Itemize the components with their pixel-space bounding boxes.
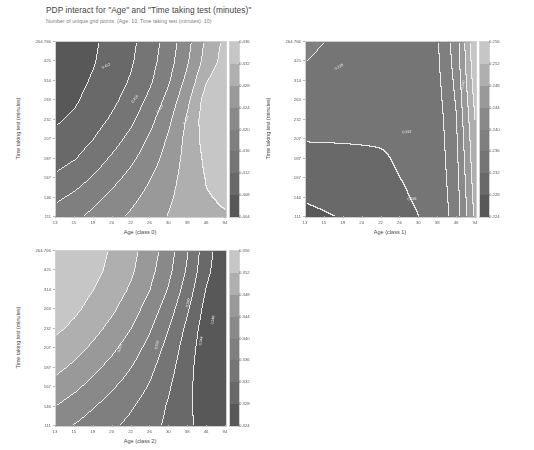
x-axis-tick-mark bbox=[187, 216, 188, 218]
y-axis-tick-label: 167 bbox=[21, 384, 51, 389]
subplot-class-0: Time taking test (minutes) Age (class 0)… bbox=[55, 41, 225, 216]
colorbar-tick-label: 0.340 bbox=[239, 335, 250, 340]
colorbar-tick-label: 0.224 bbox=[489, 214, 500, 219]
x-axis-tick-mark bbox=[55, 425, 56, 427]
y-axis-tick-label: 314 bbox=[21, 77, 51, 82]
y-axis-tick-label: 263 bbox=[271, 97, 301, 102]
x-axis-tick-label: 46 bbox=[204, 220, 209, 225]
x-axis-tick-label: 38 bbox=[185, 429, 190, 434]
pdp-figure: PDP interact for "Age" and "Time taking … bbox=[0, 0, 534, 450]
x-axis-tick-mark bbox=[168, 425, 169, 427]
x-axis-tick-mark bbox=[381, 216, 382, 218]
x-axis-tick-mark bbox=[112, 425, 113, 427]
colorbar-tick-label: 0.240 bbox=[489, 126, 500, 131]
colorbar-tick-label: 0.344 bbox=[239, 313, 250, 318]
y-axis-tick-label: 146 bbox=[21, 194, 51, 199]
y-axis-tick-label: 167 bbox=[21, 175, 51, 180]
y-axis-tick-mark bbox=[53, 41, 55, 42]
x-axis-tick-label: 15 bbox=[321, 220, 326, 225]
y-axis-tick-mark bbox=[53, 60, 55, 61]
y-axis-tick-label: 263 bbox=[21, 97, 51, 102]
x-axis-tick-mark bbox=[149, 425, 150, 427]
colorbar-tick-label: 0.336 bbox=[239, 357, 250, 362]
y-axis-tick-mark bbox=[53, 250, 55, 251]
subplot-class-1: Time taking test (minutes) Age (class 1)… bbox=[305, 41, 475, 216]
y-axis-tick-mark bbox=[53, 386, 55, 387]
x-axis-tick-label: 46 bbox=[454, 220, 459, 225]
x-axis-tick-label: 94 bbox=[223, 429, 228, 434]
x-axis-tick-label: 94 bbox=[473, 220, 478, 225]
y-axis-tick-mark bbox=[303, 41, 305, 42]
x-axis-tick-mark bbox=[168, 216, 169, 218]
contour-plot-class-1[interactable] bbox=[305, 41, 477, 218]
x-axis-tick-mark bbox=[475, 216, 476, 218]
y-axis-tick-mark bbox=[303, 177, 305, 178]
x-axis-tick-mark bbox=[131, 216, 132, 218]
x-axis-tick-label: 20 bbox=[109, 220, 114, 225]
y-axis-tick-mark bbox=[53, 308, 55, 309]
contour-plot-class-0[interactable] bbox=[55, 41, 227, 218]
x-axis-tick-label: 22 bbox=[378, 220, 383, 225]
y-axis-tick-mark bbox=[53, 119, 55, 120]
y-axis-tick-label: 111 bbox=[21, 214, 51, 219]
x-axis-tick-label: 26 bbox=[147, 429, 152, 434]
x-axis-tick-label: 46 bbox=[204, 429, 209, 434]
y-axis-tick-label: 167 bbox=[271, 175, 301, 180]
y-axis-tick-label: 264.766 bbox=[21, 39, 51, 44]
y-axis-tick-label: 425 bbox=[21, 58, 51, 63]
y-axis-tick-label: 232 bbox=[21, 325, 51, 330]
x-axis-tick-label: 94 bbox=[223, 220, 228, 225]
x-axis-tick-mark bbox=[225, 425, 226, 427]
contour-plot-class-2[interactable] bbox=[55, 250, 227, 427]
colorbar-tick-label: 0.408 bbox=[239, 192, 250, 197]
x-axis-tick-label: 20 bbox=[109, 429, 114, 434]
colorbar-tick-label: 0.228 bbox=[489, 192, 500, 197]
x-axis-tick-label: 19 bbox=[90, 220, 95, 225]
y-axis-tick-mark bbox=[303, 119, 305, 120]
x-axis-tick-label: 20 bbox=[359, 220, 364, 225]
colorbar-tick-label: 0.328 bbox=[239, 401, 250, 406]
x-axis-tick-mark bbox=[343, 216, 344, 218]
x-axis-tick-label: 19 bbox=[340, 220, 345, 225]
colorbar-tick-label: 0.352 bbox=[239, 269, 250, 274]
y-axis-tick-label: 232 bbox=[271, 116, 301, 121]
x-axis-tick-label: 22 bbox=[128, 429, 133, 434]
y-axis-tick-mark bbox=[303, 197, 305, 198]
y-axis-tick-mark bbox=[53, 158, 55, 159]
x-axis-tick-mark bbox=[437, 216, 438, 218]
colorbar-tick-label: 0.416 bbox=[239, 148, 250, 153]
x-axis-label-class-1: Age (class 1) bbox=[305, 229, 475, 235]
y-axis-tick-label: 187 bbox=[21, 155, 51, 160]
x-axis-tick-label: 13 bbox=[53, 220, 58, 225]
y-axis-tick-label: 207 bbox=[21, 345, 51, 350]
x-axis-tick-label: 15 bbox=[71, 429, 76, 434]
y-axis-tick-label: 314 bbox=[271, 77, 301, 82]
colorbar-tick-label: 0.436 bbox=[239, 39, 250, 44]
y-axis-tick-label: 187 bbox=[271, 155, 301, 160]
colorbar-tick-label: 0.256 bbox=[489, 39, 500, 44]
y-axis-tick-mark bbox=[53, 177, 55, 178]
x-axis-tick-mark bbox=[399, 216, 400, 218]
x-axis-tick-mark bbox=[131, 425, 132, 427]
colorbar-tick-label: 0.424 bbox=[239, 104, 250, 109]
colorbar-tick-label: 0.232 bbox=[489, 170, 500, 175]
colorbar-tick-label: 0.428 bbox=[239, 82, 250, 87]
x-axis-tick-label: 13 bbox=[303, 220, 308, 225]
x-axis-tick-mark bbox=[418, 216, 419, 218]
x-axis-tick-label: 38 bbox=[435, 220, 440, 225]
y-axis-tick-mark bbox=[53, 269, 55, 270]
x-axis-tick-mark bbox=[93, 216, 94, 218]
x-axis-tick-mark bbox=[187, 425, 188, 427]
x-axis-tick-label: 15 bbox=[71, 220, 76, 225]
y-axis-tick-mark bbox=[53, 367, 55, 368]
y-axis-tick-label: 207 bbox=[271, 136, 301, 141]
y-axis-tick-mark bbox=[303, 138, 305, 139]
x-axis-label-class-2: Age (class 2) bbox=[55, 438, 225, 444]
colorbar-tick-label: 0.324 bbox=[239, 423, 250, 428]
x-axis-tick-mark bbox=[74, 216, 75, 218]
y-axis-tick-label: 264.766 bbox=[21, 248, 51, 253]
subplot-class-2: Time taking test (minutes) Age (class 2)… bbox=[55, 250, 225, 425]
figure-subtitle: Number of unique grid points: (Age: 10, … bbox=[46, 18, 211, 24]
colorbar-tick-label: 0.348 bbox=[239, 291, 250, 296]
y-axis-tick-label: 111 bbox=[271, 214, 301, 219]
